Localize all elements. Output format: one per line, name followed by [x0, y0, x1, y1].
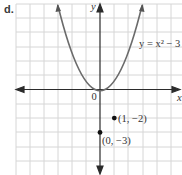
- vertex-label: (0, −3): [102, 135, 131, 147]
- y-axis-label: y: [90, 1, 96, 12]
- part-label: d.: [4, 3, 14, 15]
- equation-label: y = x² − 3: [139, 38, 180, 49]
- y-axis-up-arrow-icon: [97, 4, 103, 12]
- y-axis-down-arrow-icon: [97, 166, 103, 174]
- point-1-neg2: [112, 116, 117, 121]
- axes: [16, 4, 180, 174]
- x-axis-left-arrow-icon: [16, 87, 24, 93]
- point-1-neg2-label: (1, −2): [118, 113, 147, 125]
- origin-label: 0: [92, 91, 97, 102]
- parabola-figure: d.: [0, 0, 182, 175]
- x-axis-label: x: [176, 92, 182, 103]
- graph-canvas: (1, −2) (0, −3) y = x² − 3 0 y x: [0, 0, 182, 175]
